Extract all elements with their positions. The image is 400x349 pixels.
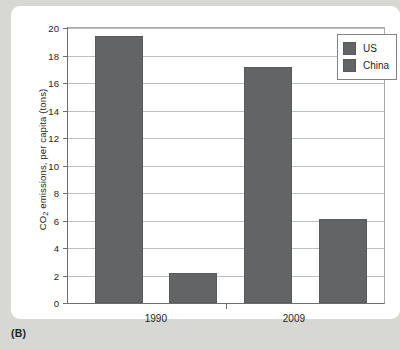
y-tick-label-6: 6 (54, 215, 59, 226)
y-axis-title-subscript: 2 (41, 212, 50, 216)
y-axis-title-prefix: CO (37, 216, 48, 231)
y-tick-label-20: 20 (48, 23, 59, 34)
plot-area: 20 18 16 14 12 10 8 6 4 2 0 1990 2009 US… (67, 27, 385, 304)
bar-us-2009 (244, 67, 292, 304)
y-tick-label-2: 2 (54, 270, 59, 281)
y-tick-label-12: 12 (48, 133, 59, 144)
figure-caption: (B) (11, 327, 26, 339)
y-tick-mark-8 (63, 193, 68, 194)
y-tick-mark-4 (63, 248, 68, 249)
x-tick-label-1990: 1990 (145, 313, 167, 324)
y-tick-label-4: 4 (54, 243, 59, 254)
legend-item-us: US (343, 40, 390, 57)
y-tick-mark-10 (63, 166, 68, 167)
gridline-20 (68, 28, 384, 29)
bar-us-1990 (95, 36, 143, 303)
y-tick-label-10: 10 (48, 160, 59, 171)
legend-swatch-icon-us (343, 42, 356, 55)
figure-panel: CO2 emissions, per capita (tons) 20 18 1… (11, 6, 400, 319)
y-tick-mark-2 (63, 276, 68, 277)
x-tick-mark-divider (226, 303, 227, 309)
y-tick-mark-16 (63, 83, 68, 84)
y-tick-label-14: 14 (48, 105, 59, 116)
y-tick-mark-20 (63, 28, 68, 29)
bar-china-2009 (319, 219, 367, 303)
y-tick-mark-6 (63, 221, 68, 222)
y-tick-label-8: 8 (54, 188, 59, 199)
y-tick-label-0: 0 (54, 298, 59, 309)
x-tick-label-2009: 2009 (283, 313, 305, 324)
y-tick-mark-12 (63, 138, 68, 139)
y-tick-mark-18 (63, 56, 68, 57)
y-tick-mark-0 (63, 303, 68, 304)
legend-item-china: China (343, 57, 390, 74)
legend-label-china: China (363, 60, 389, 71)
y-tick-mark-14 (63, 111, 68, 112)
bar-china-1990 (169, 273, 217, 303)
y-axis-title-suffix: emissions, per capita (tons) (37, 89, 48, 212)
y-tick-label-16: 16 (48, 78, 59, 89)
y-tick-label-18: 18 (48, 50, 59, 61)
legend-label-us: US (363, 43, 377, 54)
y-axis-title: CO2 emissions, per capita (tons) (37, 55, 48, 265)
chart-legend: US China (337, 34, 397, 80)
legend-swatch-icon-china (343, 59, 356, 72)
